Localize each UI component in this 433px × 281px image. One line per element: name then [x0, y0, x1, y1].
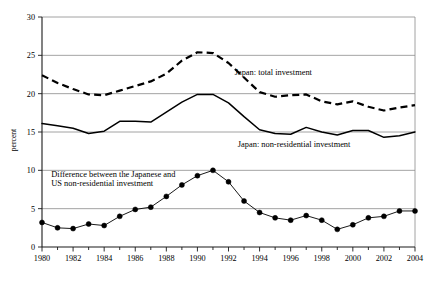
- x-tick-label-2002: 2002: [376, 254, 392, 263]
- x-tick-label-1996: 1996: [282, 254, 298, 263]
- y-axis-title-text: percent: [9, 128, 18, 151]
- chart-figure: 051015202530 198019821984198619881990199…: [0, 0, 433, 281]
- data-point-marker: [288, 218, 293, 223]
- x-tick-label-1994: 1994: [251, 254, 267, 263]
- data-point-marker: [319, 218, 324, 223]
- y-axis-title: percent: [9, 128, 18, 151]
- data-point-marker: [350, 222, 355, 227]
- data-point-marker: [133, 207, 138, 212]
- x-tick-label-2000: 2000: [345, 254, 361, 263]
- total-investment-label: Japan: total investment: [235, 68, 313, 77]
- data-point-marker: [242, 199, 247, 204]
- data-point-marker: [366, 215, 371, 220]
- data-point-marker: [335, 227, 340, 232]
- data-point-marker: [55, 225, 60, 230]
- y-tick-label-10: 10: [27, 166, 35, 175]
- investment-line-chart: 051015202530 198019821984198619881990199…: [0, 0, 433, 281]
- data-point-marker: [86, 222, 91, 227]
- y-tick-label-15: 15: [27, 128, 35, 137]
- x-tick-label-2004: 2004: [407, 254, 423, 263]
- data-point-marker: [257, 210, 262, 215]
- data-point-marker: [397, 208, 402, 213]
- x-tick-label-1984: 1984: [96, 254, 112, 263]
- x-tick-label-1980: 1980: [34, 254, 50, 263]
- data-point-marker: [117, 214, 122, 219]
- data-point-marker: [40, 220, 45, 225]
- x-tick-label-1982: 1982: [65, 254, 81, 263]
- data-point-marker: [210, 168, 215, 173]
- y-tick-label-25: 25: [27, 51, 35, 60]
- data-point-marker: [102, 223, 107, 228]
- y-tick-label-5: 5: [31, 205, 35, 214]
- x-tick-label-1988: 1988: [158, 254, 174, 263]
- data-point-marker: [179, 182, 184, 187]
- data-point-marker: [71, 226, 76, 231]
- data-point-marker: [273, 215, 278, 220]
- data-point-marker: [304, 213, 309, 218]
- y-tick-label-0: 0: [31, 243, 35, 252]
- data-point-marker: [226, 179, 231, 184]
- data-point-marker: [381, 214, 386, 219]
- difference-label-line2: US non-residential investment: [51, 179, 154, 188]
- data-point-marker: [148, 205, 153, 210]
- non-residential-label: Japan: non-residential investment: [238, 140, 351, 149]
- y-tick-label-30: 30: [27, 13, 35, 22]
- x-tick-label-1986: 1986: [127, 254, 143, 263]
- x-tick-label-1998: 1998: [314, 254, 330, 263]
- data-point-marker: [195, 173, 200, 178]
- data-point-marker: [413, 208, 418, 213]
- y-tick-label-20: 20: [27, 90, 35, 99]
- data-point-marker: [164, 194, 169, 199]
- x-tick-label-1992: 1992: [220, 254, 236, 263]
- chart-background: [0, 0, 433, 281]
- x-tick-label-1990: 1990: [189, 254, 205, 263]
